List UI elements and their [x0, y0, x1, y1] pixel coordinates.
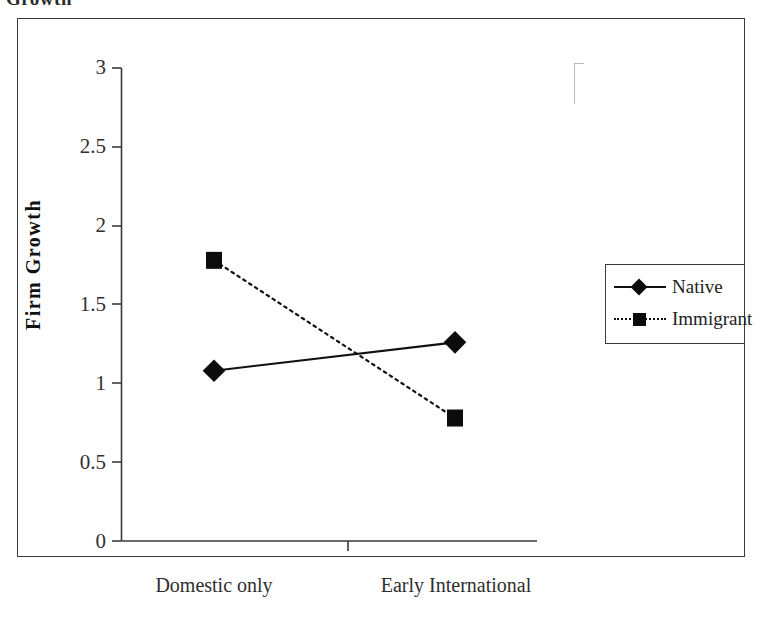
- legend-label-native: Native: [672, 276, 723, 298]
- legend-item-native: Native: [614, 274, 723, 300]
- immigrant-data-point: [206, 252, 222, 269]
- y-axis-ticks: [112, 68, 122, 541]
- scan-artifact-mark: [574, 63, 584, 104]
- native-data-point: [444, 331, 467, 354]
- immigrant-line-segment: [214, 260, 455, 418]
- x-tick-label-domestic-only: Domestic only: [134, 574, 294, 597]
- x-tick-label-early-international: Early International: [348, 574, 564, 597]
- square-marker-icon: [614, 310, 666, 328]
- immigrant-data-point: [447, 410, 463, 427]
- legend-item-immigrant: Immigrant: [614, 306, 752, 332]
- series-immigrant: [206, 252, 463, 427]
- legend-label-immigrant: Immigrant: [672, 308, 752, 330]
- native-line-segment: [214, 342, 455, 370]
- chart-canvas: Growth Firm Growth 3 2.5 2 1.5 1 0.5 0: [0, 0, 764, 618]
- diamond-marker-icon: [614, 278, 666, 296]
- legend: Native Immigrant: [605, 264, 745, 344]
- series-native: [203, 331, 467, 382]
- native-data-point: [203, 359, 226, 382]
